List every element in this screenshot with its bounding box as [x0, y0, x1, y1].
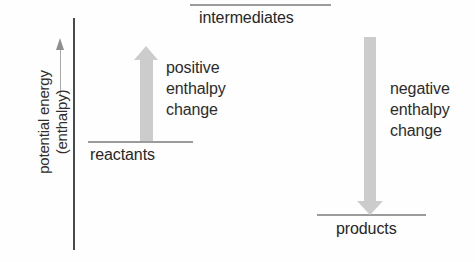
arrow-up-shaft — [140, 59, 153, 141]
y-axis-label-line2: (enthalpy) — [53, 22, 71, 222]
annotation-positive-enthalpy-change: positive enthalpy change — [166, 57, 226, 120]
annotation-negative-enthalpy-change: negative enthalpy change — [390, 78, 450, 141]
energy-level-label-intermediates: intermediates — [199, 9, 294, 27]
arrow-up-head — [134, 46, 158, 60]
energy-level-line-intermediates — [190, 4, 331, 6]
energy-level-line-reactants — [88, 141, 193, 143]
arrow-down-icon — [357, 37, 383, 215]
arrow-up-icon — [134, 46, 159, 141]
annotation-negative-line3: change — [390, 120, 450, 141]
arrow-down-shaft — [364, 37, 376, 202]
energy-level-label-products: products — [336, 220, 397, 238]
annotation-negative-line1: negative — [390, 78, 450, 99]
y-axis-label: potential energy (enthalpy) — [35, 22, 71, 222]
annotation-negative-line2: enthalpy — [390, 99, 450, 120]
annotation-positive-line2: enthalpy — [166, 78, 226, 99]
enthalpy-diagram: potential energy (enthalpy) reactants in… — [0, 0, 475, 262]
annotation-positive-line3: change — [166, 99, 226, 120]
y-axis-line — [73, 18, 75, 250]
arrow-down-head — [357, 201, 383, 215]
energy-level-label-reactants: reactants — [90, 146, 155, 164]
y-axis-label-line1: potential energy — [35, 70, 52, 174]
annotation-positive-line1: positive — [166, 57, 226, 78]
